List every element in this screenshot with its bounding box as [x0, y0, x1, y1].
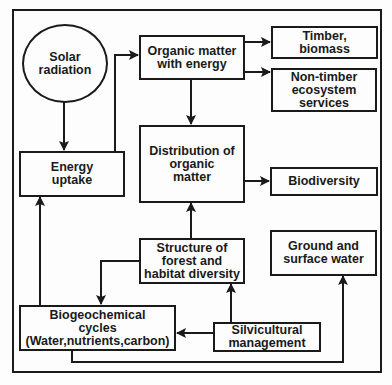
node-timber-biomass: Timber, biomass [271, 26, 378, 59]
node-structure-habitat: Structure of forest and habitat diversit… [139, 238, 245, 284]
arrow-structure-to-biogeochemical [101, 261, 139, 304]
node-ground-surface-water: Ground and surface water [270, 230, 377, 276]
node-non-timber-services: Non-timber ecosystem services [271, 68, 377, 112]
node-solar-radiation: Solar radiation [22, 24, 108, 103]
node-distribution-organic-matter: Distribution of organic matter [139, 125, 245, 203]
arrow-energy-to-organic [115, 55, 138, 151]
node-biogeochemical-cycles: Biogeochemical cycles (Water,nutrients,c… [19, 305, 176, 351]
node-silvicultural-management: Silvicultural management [213, 322, 321, 352]
node-biodiversity: Biodiversity [270, 167, 378, 196]
node-energy-uptake: Energy uptake [19, 151, 125, 197]
node-organic-matter: Organic matter with energy [139, 35, 245, 80]
